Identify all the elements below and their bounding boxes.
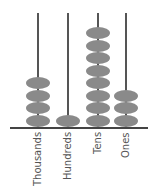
bead-thousands xyxy=(26,102,50,114)
bead-tens xyxy=(86,90,110,102)
bead-ones xyxy=(114,115,138,127)
bead-thousands xyxy=(26,90,50,102)
bead-tens xyxy=(86,102,110,114)
abacus-base xyxy=(10,127,148,129)
bead-thousands xyxy=(26,77,50,89)
label-hundreds: Hundreds xyxy=(62,132,73,180)
bead-tens xyxy=(86,52,110,64)
bead-tens xyxy=(86,115,110,127)
label-ones: Ones xyxy=(120,132,131,158)
bead-tens xyxy=(86,65,110,77)
bead-ones xyxy=(114,90,138,102)
bead-tens xyxy=(86,77,110,89)
label-thousands: Thousands xyxy=(32,132,43,186)
bead-tens xyxy=(86,40,110,52)
bead-ones xyxy=(114,102,138,114)
bead-tens xyxy=(86,27,110,39)
rod-hundreds xyxy=(67,13,69,127)
label-tens: Tens xyxy=(92,132,103,154)
bead-thousands xyxy=(26,115,50,127)
bead-hundreds xyxy=(56,115,80,127)
